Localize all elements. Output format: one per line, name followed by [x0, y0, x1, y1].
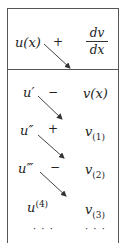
arrow-icon: [38, 96, 62, 119]
arrow-icon: [40, 172, 66, 196]
arrow-icon: [44, 44, 70, 68]
arrow-icon: [38, 135, 64, 158]
